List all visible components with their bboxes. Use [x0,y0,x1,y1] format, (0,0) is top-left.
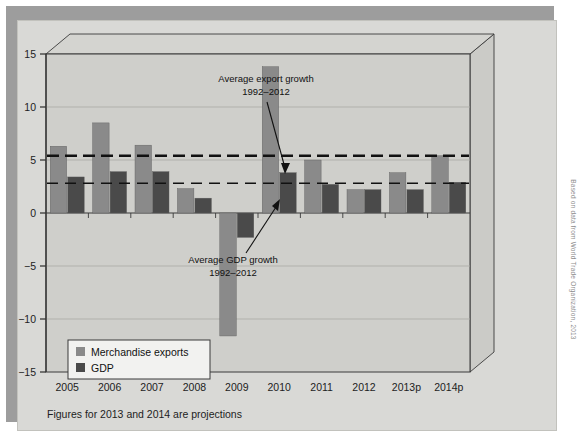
y-tick-label-15: 15 [24,48,36,60]
figure-page: 151050−5−10−15 2005200620072008200920102… [0,0,582,448]
bar-gdp-2013p [407,190,424,213]
y-tick-labels: 151050−5−10−15 [18,48,36,378]
x-tick-label-2009: 2009 [225,381,249,393]
y-tick-label--10: −10 [18,313,36,325]
x-tick-label-2005: 2005 [56,381,80,393]
x-tick-label-2012: 2012 [352,381,376,393]
x-tick-label-2011: 2011 [310,381,333,393]
bar-gdp-2006 [110,172,127,213]
annotation-gdp-growth-line2: 1992–2012 [209,267,257,278]
bar-merchandise-exports-2008 [177,189,194,213]
y-tick-label--15: −15 [18,366,36,378]
bar-merchandise-exports-2011 [305,160,322,213]
x-tick-label-2007: 2007 [140,381,164,393]
x-tick-labels: 200520062007200820092010201120122013p201… [56,381,464,393]
bar-gdp-2011 [322,184,339,213]
figure-credit-text: Based on data from World Trade Organizat… [570,179,577,339]
bar-merchandise-exports-2014p [432,156,449,213]
figure-credit: Based on data from World Trade Organizat… [566,256,580,446]
legend-label-gdp: GDP [91,362,114,374]
bar-merchandise-exports-2012 [347,190,364,213]
bar-merchandise-exports-2006 [93,123,110,213]
bar-merchandise-exports-2013p [389,173,406,213]
legend-swatch-merchandise-exports [76,347,85,356]
bar-gdp-2014p [449,182,466,213]
legend-swatch-gdp [76,363,85,372]
bar-gdp-2005 [68,177,85,213]
bar-gdp-2007 [153,172,170,213]
bar-gdp-2010 [280,173,297,213]
y-tick-label-5: 5 [30,154,36,166]
annotation-gdp-growth-line1: Average GDP growth [188,254,277,265]
y-tick-label-10: 10 [24,101,36,113]
y-tick-marks [40,54,46,372]
chart-container: 151050−5−10−15 2005200620072008200920102… [17,20,555,429]
bar-gdp-2008 [195,198,212,213]
bar-gdp-2009 [237,213,254,237]
x-tick-label-2006: 2006 [98,381,122,393]
annotation-export-growth-line1: Average export growth [218,73,313,84]
annotation-export-growth-line2: 1992–2012 [242,86,290,97]
x-tick-label-2010: 2010 [268,381,292,393]
x-tick-label-2014p: 2014p [434,381,463,393]
bar-gdp-2012 [365,190,382,213]
y-tick-label-0: 0 [30,207,36,219]
x-tick-label-2013p: 2013p [392,381,421,393]
bar-chart: 151050−5−10−15 2005200620072008200920102… [17,20,555,429]
y-tick-label--5: −5 [24,260,36,272]
x-tick-label-2008: 2008 [183,381,207,393]
legend-label-merchandise-exports: Merchandise exports [91,346,188,358]
figure-note: Figures for 2013 and 2014 are projection… [47,408,242,420]
chart-legend: Merchandise exports GDP [68,340,210,379]
